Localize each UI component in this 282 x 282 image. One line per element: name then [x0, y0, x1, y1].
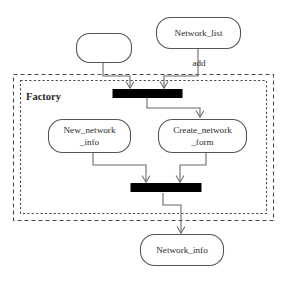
node-new-network-info-label-line2: _info [79, 137, 100, 147]
diagram-svg: Factory add [0, 0, 282, 282]
node-anonymous-shape[interactable] [77, 34, 132, 63]
edge-new-network-info-to-bar-bottom [93, 152, 146, 182]
edge-anon-to-bar-top [103, 63, 130, 88]
edge-network-list-to-bar-top [164, 48, 198, 88]
node-new-network-info[interactable]: New_network _info [49, 120, 131, 153]
node-network-info[interactable]: Network_info [141, 235, 224, 266]
node-create-network-form-label-line2: _form [190, 137, 213, 147]
edge-label-add: add [193, 58, 206, 68]
node-new-network-info-label-line1: New_network [63, 125, 115, 135]
sync-bar-bottom [131, 184, 201, 192]
node-anonymous[interactable] [77, 34, 132, 63]
node-create-network-form[interactable]: Create_network _form [159, 120, 247, 153]
node-create-network-form-label-line1: Create_network [173, 125, 232, 135]
edge-create-network-form-to-bar-bottom [180, 152, 206, 182]
factory-label: Factory [26, 91, 62, 102]
diagram-canvas: Factory add [0, 0, 282, 282]
sync-bar-top [113, 90, 182, 98]
node-network-info-label: Network_info [156, 245, 208, 255]
node-network-list[interactable]: Network_list [157, 18, 241, 49]
edge-bar-top-to-create-network-form [147, 98, 200, 117]
node-network-list-label: Network_list [175, 28, 223, 38]
